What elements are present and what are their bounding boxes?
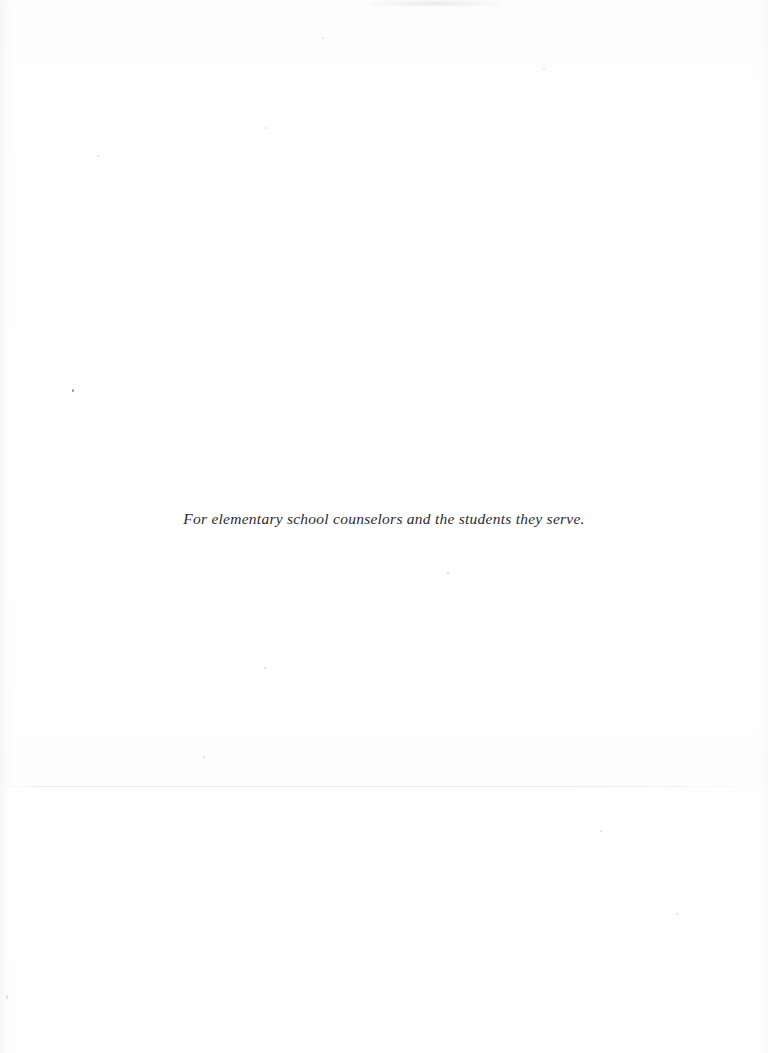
scan-speck-artifact: [97, 155, 99, 157]
scan-smudge-artifact: [370, 0, 500, 7]
scan-speck-artifact: [543, 68, 545, 70]
scan-speck-artifact: [447, 572, 449, 574]
scan-speck-artifact: [6, 995, 8, 999]
scan-speck-artifact: [265, 127, 267, 129]
scan-speck-artifact: [322, 37, 324, 39]
scan-speck-artifact: [203, 756, 205, 758]
dedication-text: For elementary school counselors and the…: [183, 508, 584, 530]
scan-speck-artifact: [72, 389, 74, 392]
scan-seam-artifact: [0, 786, 768, 787]
dedication-block: For elementary school counselors and the…: [0, 508, 768, 530]
scan-speck-artifact: [676, 913, 678, 915]
scan-speck-artifact: [264, 667, 266, 669]
scan-speck-artifact: [600, 830, 602, 832]
dedication-page: For elementary school counselors and the…: [0, 0, 768, 1053]
